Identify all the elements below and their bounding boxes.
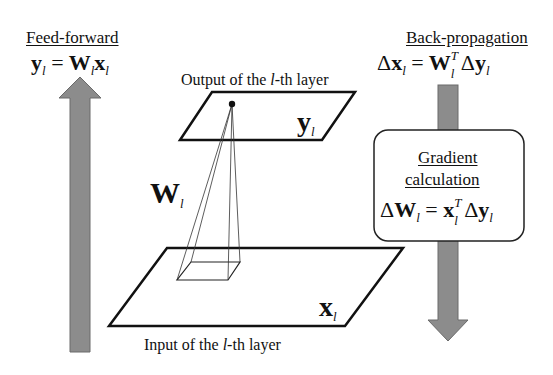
symbol-subscript: l xyxy=(180,196,184,211)
feed-forward-arrow xyxy=(59,77,101,352)
input-layer-caption: Input of the l-th layer xyxy=(144,337,281,353)
eq-delta: Δ xyxy=(461,50,475,75)
eq-term: x xyxy=(94,50,105,75)
gradient-heading-line2: calculation xyxy=(405,171,480,188)
eq-equals: = xyxy=(411,50,423,75)
gradient-equation: ΔWl = xTlΔyl xyxy=(380,199,493,224)
symbol-term: W xyxy=(150,176,180,209)
eq-delta: Δ xyxy=(464,197,478,222)
input-layer-symbol: xl xyxy=(319,293,337,323)
weights-symbol: Wl xyxy=(150,178,184,210)
eq-superscript: T xyxy=(454,196,461,209)
eq-subscript: l xyxy=(454,214,458,227)
eq-delta: Δ xyxy=(377,50,391,75)
output-layer-symbol: yl xyxy=(297,108,315,138)
eq-subscript: l xyxy=(42,63,46,78)
eq-equals: = xyxy=(51,50,63,75)
eq-subscript: l xyxy=(402,63,406,78)
eq-subscript: l xyxy=(486,63,490,78)
input-layer-plane xyxy=(109,248,403,326)
back-propagation-equation: Δxl = WTlΔyl xyxy=(377,52,490,77)
back-propagation-arrow-top xyxy=(438,85,458,131)
eq-delta: Δ xyxy=(380,197,394,222)
output-layer-caption: Output of the l-th layer xyxy=(181,72,329,88)
symbol-subscript: l xyxy=(311,124,315,139)
eq-term: x xyxy=(443,197,454,222)
eq-subscript: l xyxy=(105,63,109,78)
feed-forward-equation: yl = Wlxl xyxy=(31,52,109,77)
eq-subscript: l xyxy=(489,210,493,225)
eq-term: y xyxy=(31,50,42,75)
receptive-field-box xyxy=(177,262,240,280)
eq-subscript: l xyxy=(416,210,420,225)
eq-supsub: Tl xyxy=(451,69,461,70)
eq-equals: = xyxy=(425,197,437,222)
eq-superscript: T xyxy=(451,49,458,62)
symbol-subscript: l xyxy=(333,309,337,324)
eq-term: y xyxy=(478,197,489,222)
eq-term: x xyxy=(391,50,402,75)
eq-term: y xyxy=(475,50,486,75)
back-propagation-heading: Back-propagation xyxy=(406,29,528,46)
output-neuron-dot xyxy=(229,101,235,107)
caption-text: -th layer xyxy=(275,71,329,88)
eq-term: W xyxy=(394,197,416,222)
caption-text: -th layer xyxy=(227,336,281,353)
caption-text: Output of the xyxy=(181,71,270,88)
gradient-heading-line1: Gradient xyxy=(418,149,477,166)
eq-supsub: Tl xyxy=(454,216,464,217)
eq-subscript: l xyxy=(451,67,455,80)
output-layer-plane xyxy=(180,92,355,140)
eq-term: W xyxy=(429,50,451,75)
eq-term: W xyxy=(69,50,91,75)
symbol-term: x xyxy=(319,291,333,322)
caption-text: Input of the xyxy=(144,336,223,353)
back-propagation-arrow-bottom xyxy=(428,240,468,341)
symbol-term: y xyxy=(297,106,311,137)
feed-forward-heading: Feed-forward xyxy=(26,29,119,46)
